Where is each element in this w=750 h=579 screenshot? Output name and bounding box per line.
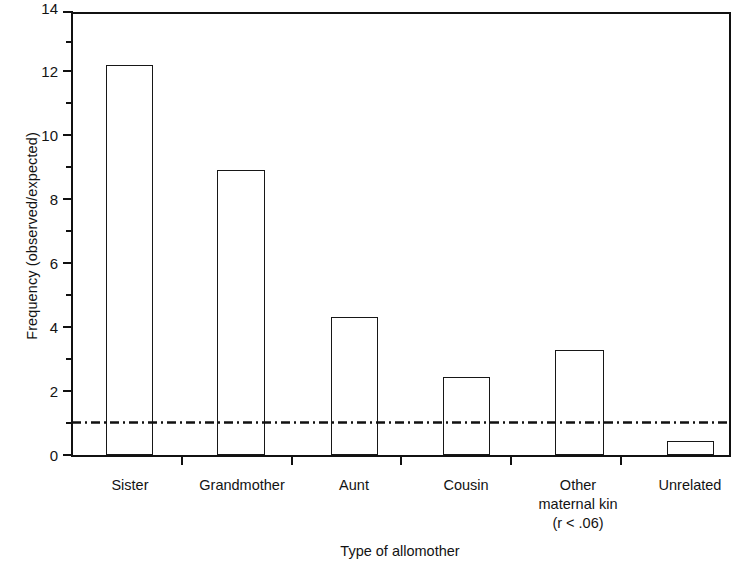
x-tick-label-other-maternal-kin-line-3: (r < .06) bbox=[518, 514, 638, 533]
y-tick-label-8: 8 bbox=[24, 192, 58, 207]
x-tick-label-other-maternal-kin: Other maternal kin (r < .06) bbox=[518, 476, 638, 533]
x-tick-separator-1 bbox=[181, 456, 183, 465]
x-tick-label-unrelated-line-1: Unrelated bbox=[630, 476, 750, 495]
bar-aunt bbox=[331, 317, 378, 455]
x-tick-label-aunt: Aunt bbox=[294, 476, 414, 495]
expected-frequency-reference-line bbox=[72, 421, 730, 424]
x-tick-label-aunt-line-1: Aunt bbox=[294, 476, 414, 495]
x-axis-title: Type of allomother bbox=[0, 543, 750, 559]
x-tick-label-other-maternal-kin-line-1: Other bbox=[518, 476, 638, 495]
y-tick-label-0: 0 bbox=[24, 448, 58, 463]
x-tick-label-unrelated: Unrelated bbox=[630, 476, 750, 495]
y-tick-label-6: 6 bbox=[24, 256, 58, 271]
x-tick-separator-2 bbox=[291, 456, 293, 465]
x-tick-separator-4 bbox=[510, 456, 512, 465]
bar-other-maternal-kin bbox=[555, 350, 604, 455]
bar-sister bbox=[106, 65, 153, 455]
x-tick-label-cousin: Cousin bbox=[406, 476, 526, 495]
bar-cousin bbox=[443, 377, 490, 455]
bar-unrelated bbox=[667, 441, 714, 455]
y-tick-label-10: 10 bbox=[24, 128, 58, 143]
y-tick-label-2: 2 bbox=[24, 384, 58, 399]
y-tick-label-12: 12 bbox=[24, 64, 58, 79]
x-tick-separator-3 bbox=[400, 456, 402, 465]
x-tick-label-grandmother: Grandmother bbox=[182, 476, 302, 495]
plot-frame-right bbox=[729, 12, 731, 457]
x-tick-label-grandmother-line-1: Grandmother bbox=[182, 476, 302, 495]
x-tick-label-sister: Sister bbox=[70, 476, 190, 495]
y-axis-line bbox=[71, 12, 73, 457]
plot-frame-top bbox=[71, 12, 731, 14]
x-tick-label-sister-line-1: Sister bbox=[70, 476, 190, 495]
x-tick-label-other-maternal-kin-line-2: maternal kin bbox=[518, 495, 638, 514]
x-tick-label-cousin-line-1: Cousin bbox=[406, 476, 526, 495]
y-tick-label-4: 4 bbox=[24, 320, 58, 335]
bar-grandmother bbox=[217, 170, 265, 455]
bar-chart-figure: Frequency (observed/expected) 0 2 4 6 8 … bbox=[0, 0, 750, 579]
y-tick-label-14: 14 bbox=[24, 1, 58, 16]
x-tick-separator-5 bbox=[620, 456, 622, 465]
